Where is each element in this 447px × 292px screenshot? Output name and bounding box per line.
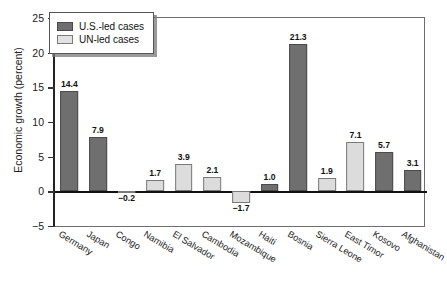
y-tick-label: 20 xyxy=(32,47,44,58)
bar-value-label: 7.9 xyxy=(92,126,104,135)
bar-value-label: 5.7 xyxy=(378,141,390,150)
y-tick-mark xyxy=(48,226,55,227)
legend-label: U.S.-led cases xyxy=(79,21,144,32)
bar[interactable] xyxy=(146,180,164,192)
x-axis-label: Afghanistan xyxy=(400,229,447,263)
bar-slot: 21.3 xyxy=(284,18,313,226)
x-axis-label: Bosnia xyxy=(285,229,314,252)
bar[interactable] xyxy=(60,91,78,191)
bar[interactable] xyxy=(318,178,336,191)
legend-item[interactable]: U.S.-led cases xyxy=(57,21,144,32)
bar-value-label: 21.3 xyxy=(290,33,307,42)
y-tick-label: 10 xyxy=(32,117,44,128)
y-tick-label: −5 xyxy=(32,221,44,232)
bar-slot: 3.1 xyxy=(398,18,427,226)
y-axis-title: Economic growth (percent) xyxy=(12,15,24,205)
bar[interactable] xyxy=(404,170,422,191)
legend-item[interactable]: UN-led cases xyxy=(57,34,144,45)
bar[interactable] xyxy=(89,137,107,192)
x-axis-label: Congo xyxy=(114,229,142,252)
bar-value-label: 14.4 xyxy=(61,80,78,89)
bar-value-label: 3.9 xyxy=(178,153,190,162)
y-tick-mark xyxy=(48,87,55,88)
x-axis-labels: GermanyJapanCongoNamibiaEl SalvadorCambo… xyxy=(53,229,425,291)
bar-slot: 2.1 xyxy=(198,18,227,226)
y-tick-mark xyxy=(48,122,55,123)
bar[interactable] xyxy=(261,184,279,191)
bar[interactable] xyxy=(289,44,307,192)
bar-value-label: 1.0 xyxy=(264,173,276,182)
bar[interactable] xyxy=(232,191,250,203)
y-tick-label: 25 xyxy=(32,13,44,24)
bar-value-label: 2.1 xyxy=(206,166,218,175)
bar-slot: 3.9 xyxy=(169,18,198,226)
bar-slot: 5.7 xyxy=(370,18,399,226)
legend-swatch-us xyxy=(57,22,73,31)
bar-slot: −1.7 xyxy=(227,18,256,226)
bar-slot: 7.1 xyxy=(341,18,370,226)
bar[interactable] xyxy=(175,164,193,191)
bar-slot: 1.0 xyxy=(255,18,284,226)
x-axis-label: Namibia xyxy=(142,229,176,255)
bar-value-label: 7.1 xyxy=(349,131,361,140)
y-tick-label: 15 xyxy=(32,82,44,93)
legend-label: UN-led cases xyxy=(79,34,139,45)
bar[interactable] xyxy=(203,177,221,192)
bar-slot: 1.9 xyxy=(313,18,342,226)
bar-value-label: 3.1 xyxy=(407,159,419,168)
y-tick-mark xyxy=(48,191,55,192)
bar[interactable] xyxy=(375,152,393,192)
bar[interactable] xyxy=(347,142,365,191)
chart-legend: U.S.-led casesUN-led cases xyxy=(49,12,154,54)
legend-swatch-un xyxy=(57,35,73,44)
bar-value-label: 1.7 xyxy=(149,169,161,178)
y-tick-mark xyxy=(48,157,55,158)
bar-value-label: 1.9 xyxy=(321,167,333,176)
y-tick-label: 5 xyxy=(38,151,44,162)
bar-value-label: −1.7 xyxy=(233,204,250,213)
y-tick-label: 0 xyxy=(38,186,44,197)
bar-value-label: −0.2 xyxy=(118,194,135,203)
